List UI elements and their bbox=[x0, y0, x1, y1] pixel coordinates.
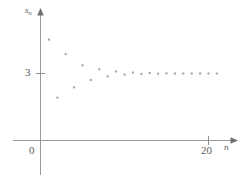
datapoint bbox=[132, 72, 134, 74]
scatter-plot-figure: sn 3 0 20 n bbox=[0, 0, 243, 183]
origin-label: 0 bbox=[29, 145, 35, 156]
datapoint bbox=[157, 73, 159, 75]
y-axis-arrowhead bbox=[37, 8, 44, 16]
datapoint bbox=[65, 53, 67, 55]
y-axis-label: sn bbox=[25, 6, 32, 15]
datapoint bbox=[182, 72, 184, 74]
datapoint-series bbox=[48, 39, 218, 99]
x-axis-arrowhead bbox=[231, 137, 239, 144]
datapoint bbox=[207, 72, 209, 74]
y-axis-label-subscript: n bbox=[29, 9, 32, 16]
datapoint bbox=[191, 72, 193, 74]
datapoint bbox=[149, 72, 151, 74]
datapoint bbox=[56, 97, 58, 99]
x-tick-label-20: 20 bbox=[201, 145, 212, 156]
datapoint bbox=[107, 75, 109, 77]
datapoint bbox=[174, 72, 176, 74]
x-axis-label: n bbox=[224, 143, 229, 152]
datapoint bbox=[199, 72, 201, 74]
datapoint bbox=[140, 73, 142, 75]
datapoint bbox=[216, 72, 218, 74]
y-tick-label-3: 3 bbox=[25, 67, 31, 78]
datapoint bbox=[90, 79, 92, 81]
datapoint bbox=[165, 72, 167, 74]
datapoint bbox=[73, 86, 75, 88]
datapoint bbox=[115, 70, 117, 72]
datapoint bbox=[48, 39, 50, 41]
datapoint bbox=[81, 64, 83, 66]
datapoint bbox=[123, 74, 125, 76]
y-axis-label-base: s bbox=[25, 5, 29, 15]
datapoint bbox=[98, 68, 100, 70]
